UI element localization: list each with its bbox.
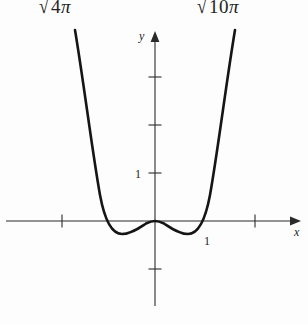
y-axis-label: y — [138, 29, 145, 43]
coordinate-plot: y x 1 1 — [0, 0, 308, 325]
y-axis-arrowhead — [151, 31, 160, 42]
y-tick-label-1: 1 — [135, 167, 141, 181]
x-axis-label: x — [293, 225, 300, 239]
figure-root: √4π √10π y x 1 1 — [0, 0, 308, 325]
x-tick-label-1: 1 — [204, 234, 210, 248]
